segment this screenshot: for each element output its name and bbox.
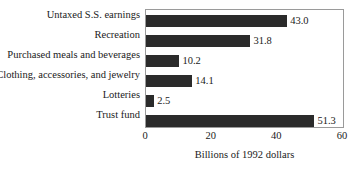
x-axis-title: Billions of 1992 dollars (145, 148, 344, 161)
plot-frame: 43.0 31.8 10.2 14.1 2.5 51.3 (145, 9, 344, 128)
bar (146, 55, 179, 67)
bar-row: 2.5 (146, 95, 343, 107)
bar (146, 75, 192, 87)
bar (146, 35, 250, 47)
bar-row: 14.1 (146, 75, 343, 87)
category-axis-labels: Untaxed S.S. earnings Recreation Purchas… (0, 9, 143, 128)
bar-value-label: 10.2 (179, 54, 200, 67)
category-label: Clothing, accessories, and jewelry (0, 69, 140, 81)
category-label: Lotteries (103, 89, 140, 101)
x-tick-label: 20 (205, 129, 216, 142)
bar (146, 115, 314, 127)
bar-row: 31.8 (146, 35, 343, 47)
x-tick-label: 40 (271, 129, 282, 142)
bar (146, 15, 287, 27)
x-tick-label: 0 (142, 129, 147, 142)
bar-row: 10.2 (146, 55, 343, 67)
plot-area: 43.0 31.8 10.2 14.1 2.5 51.3 (146, 10, 343, 127)
bar-value-label: 14.1 (192, 74, 213, 87)
category-label: Recreation (95, 29, 140, 41)
bar-row: 43.0 (146, 15, 343, 27)
category-label: Untaxed S.S. earnings (47, 9, 140, 21)
bar (146, 95, 154, 107)
category-label: Trust fund (96, 109, 140, 121)
category-label: Purchased meals and beverages (7, 49, 140, 61)
bar-value-label: 2.5 (154, 94, 170, 107)
bar-value-label: 43.0 (287, 14, 308, 27)
bar-chart-figure: Untaxed S.S. earnings Recreation Purchas… (0, 0, 358, 172)
bar-value-label: 31.8 (250, 34, 271, 47)
bar-row: 51.3 (146, 115, 343, 127)
x-axis-tick-labels: 0 20 40 60 (145, 129, 344, 143)
x-tick-label: 60 (337, 129, 348, 142)
bar-value-label: 51.3 (314, 114, 335, 127)
